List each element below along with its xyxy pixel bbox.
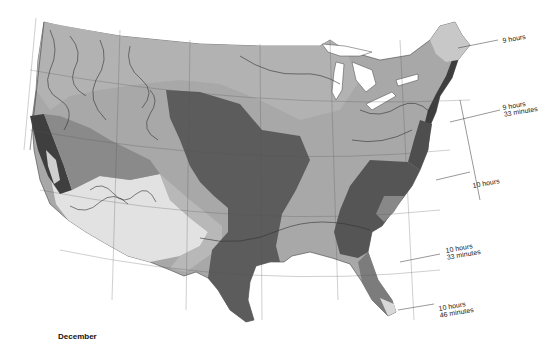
us-daylight-map (0, 0, 547, 345)
month-title: December (58, 332, 97, 341)
